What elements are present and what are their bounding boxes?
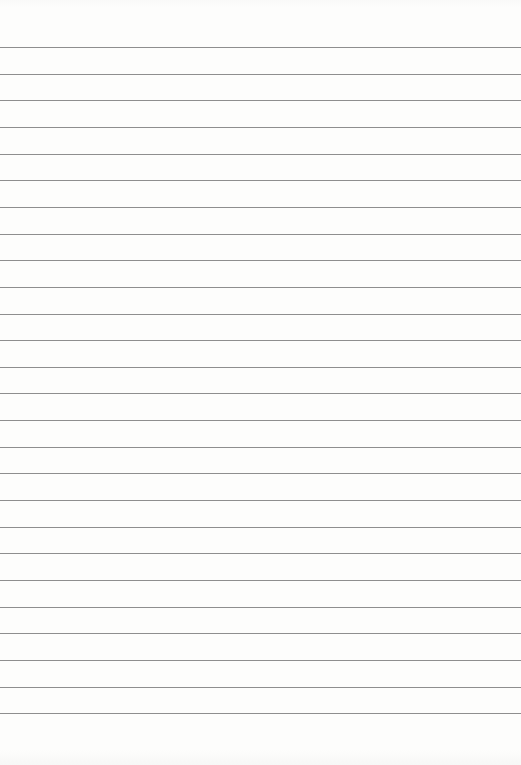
- lined-paper-sheet: [0, 0, 521, 765]
- ruled-line: [0, 340, 521, 341]
- ruled-line: [0, 74, 521, 75]
- ruled-line: [0, 553, 521, 554]
- ruled-line: [0, 100, 521, 101]
- ruled-line: [0, 633, 521, 634]
- ruled-line: [0, 314, 521, 315]
- ruled-line: [0, 473, 521, 474]
- ruled-line: [0, 47, 521, 48]
- ruled-line: [0, 260, 521, 261]
- ruled-line: [0, 580, 521, 581]
- ruled-line: [0, 154, 521, 155]
- ruled-line: [0, 607, 521, 608]
- ruled-line: [0, 180, 521, 181]
- ruled-line: [0, 500, 521, 501]
- ruled-line: [0, 287, 521, 288]
- ruled-line: [0, 207, 521, 208]
- ruled-line: [0, 234, 521, 235]
- ruled-line: [0, 527, 521, 528]
- ruled-line: [0, 687, 521, 688]
- ruled-line: [0, 447, 521, 448]
- ruled-line: [0, 127, 521, 128]
- ruled-line: [0, 713, 521, 714]
- ruled-line: [0, 420, 521, 421]
- ruled-line: [0, 660, 521, 661]
- ruled-line: [0, 367, 521, 368]
- ruled-line: [0, 393, 521, 394]
